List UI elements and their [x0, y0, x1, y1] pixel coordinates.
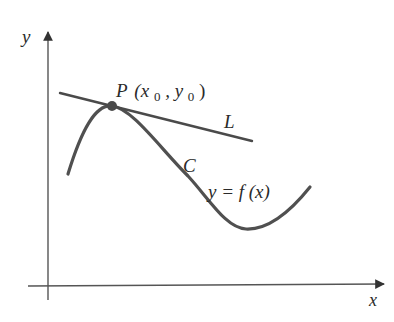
curve-equation: y = f (x) — [206, 181, 270, 203]
point-p — [107, 101, 117, 111]
point-p-label: P (x 0 , y 0 ) — [115, 80, 205, 105]
x-axis — [28, 284, 384, 286]
tangent-line-label: L — [223, 111, 235, 132]
point-coords-sep: , y — [165, 80, 184, 101]
y-axis-label: y — [20, 26, 31, 47]
point-sub-x: 0 — [154, 89, 161, 104]
point-coords-close: ) — [199, 80, 205, 102]
point-name: P — [115, 80, 128, 101]
point-coords-open: (x — [134, 80, 149, 102]
tangent-diagram: y x P (x 0 , y 0 ) L C y = f (x) — [0, 0, 394, 322]
curve-label: C — [183, 155, 196, 176]
x-axis-label: x — [368, 290, 377, 310]
point-sub-y: 0 — [188, 89, 195, 104]
